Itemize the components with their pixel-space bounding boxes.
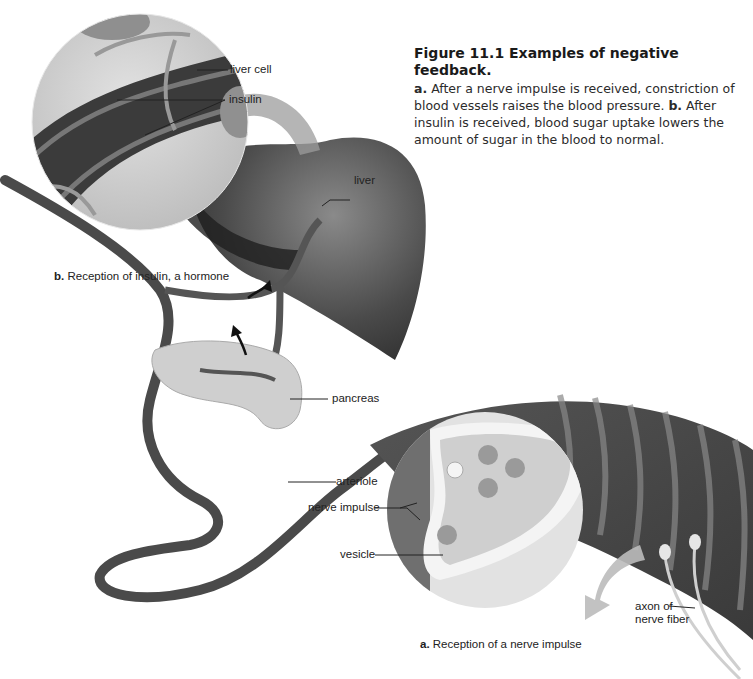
panel-b-text: Reception of insulin, a hormone [64, 270, 229, 282]
label-axon-line2: nerve fiber [635, 613, 689, 625]
figure-caption: Figure 11.1 Examples of negative feedbac… [414, 45, 739, 148]
label-liver-cell: liver cell [230, 63, 272, 75]
label-arteriole: arteriole [336, 475, 378, 487]
label-liver: liver [354, 174, 375, 186]
label-insulin: insulin [229, 93, 262, 105]
caption-a-letter: a. [414, 81, 427, 96]
panel-a-letter: a. [420, 638, 430, 650]
caption-b-letter: b. [668, 98, 682, 113]
figure-title: Figure 11.1 Examples of negative feedbac… [414, 45, 739, 79]
panel-a-title: a. Reception of a nerve impulse [420, 638, 582, 650]
pancreas-illustration [152, 341, 302, 429]
panel-b-letter: b. [54, 270, 64, 282]
label-nerve-impulse: nerve impulse [308, 501, 380, 513]
panel-b-title: b. Reception of insulin, a hormone [54, 270, 229, 282]
label-pancreas: pancreas [332, 392, 379, 404]
label-vesicle: vesicle [340, 548, 375, 560]
label-axon-line1: axon of [635, 600, 673, 612]
panel-a-text: Reception of a nerve impulse [430, 638, 582, 650]
